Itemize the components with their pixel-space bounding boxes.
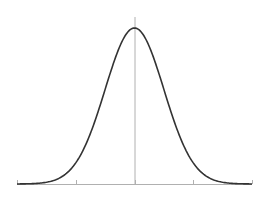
normal-distribution-chart xyxy=(0,0,267,202)
